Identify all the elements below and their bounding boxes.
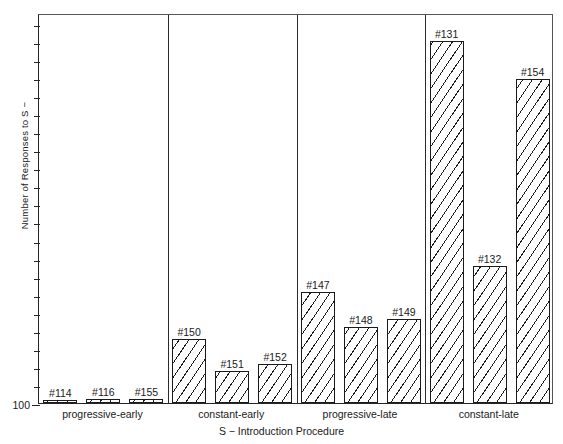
bar-subject-132: [473, 266, 507, 403]
plot-area: 100 #114#116#155#150#151#152#147#148#149…: [38, 14, 553, 404]
x-axis-title: S − Introduction Procedure: [0, 425, 563, 437]
y-tick-minor: [34, 279, 40, 280]
bar-subject-154: [516, 79, 550, 403]
bar-subject-148: [344, 327, 378, 403]
y-tick-label: 100: [12, 400, 30, 411]
y-tick-minor: [34, 116, 40, 117]
bar-value-label: #147: [293, 280, 343, 291]
y-tick-minor: [34, 152, 40, 153]
bar-value-label: #150: [164, 327, 214, 338]
y-tick-minor: [34, 297, 40, 298]
group-divider: [297, 15, 298, 403]
y-tick-minor: [34, 98, 40, 99]
y-tick-minor: [34, 261, 40, 262]
group-label-constant-late: constant-late: [424, 408, 553, 420]
bar-subject-150: [172, 339, 206, 403]
y-tick-minor: [34, 333, 40, 334]
bar-subject-116: [86, 399, 120, 403]
bar-value-label: #154: [508, 67, 558, 78]
group-label-constant-early: constant-early: [167, 408, 296, 420]
bar-subject-149: [387, 319, 421, 404]
y-tick-minor: [34, 26, 40, 27]
bar-subject-152: [258, 364, 292, 403]
y-tick-major: [32, 405, 40, 406]
y-tick-minor: [34, 134, 40, 135]
y-tick-minor: [34, 206, 40, 207]
y-tick-minor: [34, 243, 40, 244]
y-axis-title: Number of Responses to S −: [19, 56, 30, 276]
y-tick-minor: [34, 62, 40, 63]
bar-value-label: #155: [121, 387, 171, 398]
bar-chart: Number of Responses to S − 100 #114#116#…: [0, 0, 563, 444]
bar-value-label: #131: [422, 29, 472, 40]
bar-subject-151: [215, 371, 249, 403]
y-tick-minor: [34, 351, 40, 352]
bar-subject-114: [43, 400, 77, 403]
bar-value-label: #132: [465, 254, 515, 265]
y-tick-minor: [34, 80, 40, 81]
group-divider: [168, 15, 169, 403]
y-tick-minor: [34, 44, 40, 45]
bar-value-label: #152: [250, 352, 300, 363]
y-tick-minor: [34, 315, 40, 316]
bar-subject-147: [301, 292, 335, 403]
group-label-progressive-late: progressive-late: [296, 408, 425, 420]
group-label-progressive-early: progressive-early: [38, 408, 167, 420]
bar-subject-155: [129, 399, 163, 403]
group-divider: [425, 15, 426, 403]
y-tick-minor: [34, 224, 40, 225]
y-tick-minor: [34, 188, 40, 189]
bar-value-label: #149: [379, 307, 429, 318]
y-tick-minor: [34, 170, 40, 171]
y-tick-minor: [34, 369, 40, 370]
bar-subject-131: [430, 41, 464, 403]
